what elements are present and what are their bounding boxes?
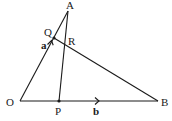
label-P: P [55, 105, 61, 117]
vector-diagram: A Q R a O P b B [0, 0, 172, 121]
point-Q-dot [52, 36, 55, 39]
label-R: R [68, 35, 76, 47]
label-B: B [161, 96, 168, 108]
label-A: A [66, 0, 74, 11]
segment-QB [54, 38, 158, 101]
label-vector-b: b [93, 105, 99, 117]
point-P-dot [57, 99, 60, 102]
label-vector-a: a [41, 39, 47, 51]
label-O: O [6, 96, 14, 108]
label-Q: Q [44, 26, 52, 38]
